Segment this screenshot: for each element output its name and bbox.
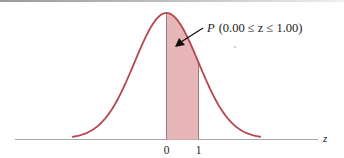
axis-variable-label: z — [322, 132, 328, 144]
normal-curve-chart: P(0.00 ≤ z ≤ 1.00) 0 1 z — [0, 0, 344, 158]
shaded-area — [167, 13, 199, 140]
annotation-label: P(0.00 ≤ z ≤ 1.00) — [206, 21, 303, 35]
tick-label-1: 1 — [196, 144, 202, 156]
speck — [234, 46, 236, 48]
tick-label-0: 0 — [164, 144, 170, 156]
